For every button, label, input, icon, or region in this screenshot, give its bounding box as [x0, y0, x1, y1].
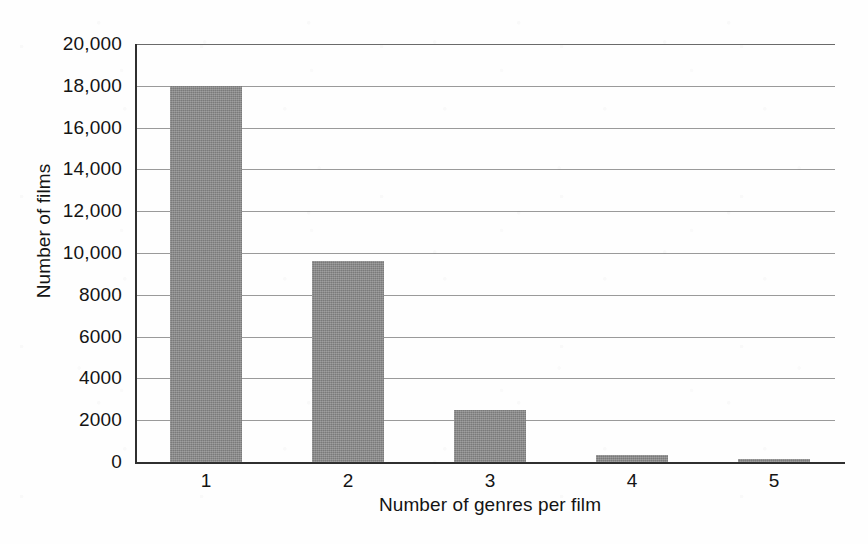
x-tick-label: 3 — [485, 470, 496, 492]
x-tick-label: 1 — [201, 470, 212, 492]
x-axis-line — [135, 462, 845, 464]
y-tick-label: 2000 — [79, 409, 122, 431]
y-tick-label: 4000 — [79, 367, 122, 389]
y-axis-title: Number of films — [22, 0, 66, 462]
y-tick-label: 12,000 — [63, 200, 122, 222]
bar — [312, 261, 384, 462]
y-tick-label: 14,000 — [63, 158, 122, 180]
y-tick-label: 10,000 — [63, 242, 122, 264]
gridline — [135, 44, 835, 45]
x-tick-label: 5 — [769, 470, 780, 492]
y-tick-label: 8000 — [79, 284, 122, 306]
y-tick-label: 20,000 — [63, 33, 122, 55]
y-tick-label: 16,000 — [63, 117, 122, 139]
y-tick-label: 18,000 — [63, 75, 122, 97]
y-tick-label: 6000 — [79, 326, 122, 348]
x-axis-title: Number of genres per film — [135, 494, 845, 516]
bar — [170, 86, 242, 462]
y-axis-line — [135, 44, 137, 463]
bar-chart-figure: Number of films 0200040006000800010,0001… — [0, 0, 868, 544]
plot-area — [135, 44, 845, 462]
bar — [596, 455, 668, 462]
x-tick-label: 2 — [343, 470, 354, 492]
y-tick-label: 0 — [111, 451, 122, 473]
bar — [454, 410, 526, 462]
x-tick-label: 4 — [627, 470, 638, 492]
